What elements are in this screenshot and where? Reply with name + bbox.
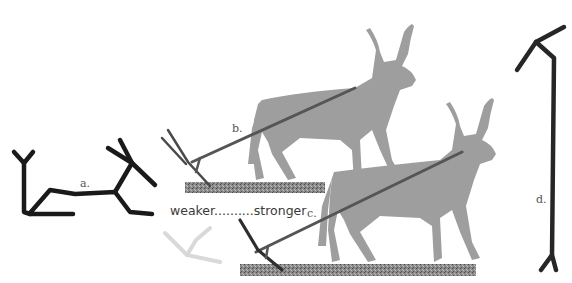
ox-b — [248, 24, 416, 182]
figure-d-tool — [517, 27, 564, 270]
label-d: d. — [536, 193, 547, 206]
plough-diagram: a. b. c. d. weaker..........stronger — [0, 0, 572, 283]
label-b: b. — [232, 122, 243, 135]
ghost-plough — [165, 228, 220, 262]
ground-strip-b — [185, 182, 325, 193]
strength-scale-caption: weaker..........stronger — [170, 203, 306, 218]
label-c: c. — [307, 207, 317, 220]
label-a: a. — [80, 177, 90, 190]
